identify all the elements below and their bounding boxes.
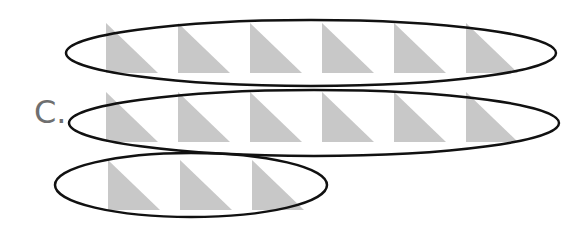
right-triangle-shape [394,92,446,142]
right-triangle-shape [250,92,302,142]
grouping-diagram: C. [0,0,588,239]
right-triangle-shape [322,23,374,73]
right-triangle-shape [250,23,302,73]
group-1 [66,20,556,86]
group-2 [69,90,559,156]
right-triangle-shape [394,23,446,73]
right-triangle-shape [180,160,232,210]
right-triangle-shape [178,23,230,73]
right-triangle-shape [322,92,374,142]
right-triangle-shape [178,92,230,142]
diagram-canvas [0,0,588,239]
right-triangle-shape [252,160,304,210]
right-triangle-shape [108,160,160,210]
group-3 [55,153,327,217]
